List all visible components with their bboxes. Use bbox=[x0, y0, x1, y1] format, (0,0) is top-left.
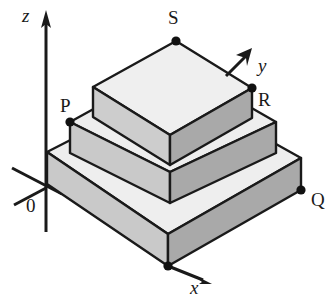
vertex-dot-Q bbox=[296, 185, 305, 194]
vertex-label-R: R bbox=[258, 90, 271, 109]
vertex-dot-front bbox=[163, 261, 172, 270]
vertex-dot-S bbox=[171, 36, 180, 45]
vertex-dot-R bbox=[247, 83, 256, 92]
y-axis-label: y bbox=[258, 56, 266, 75]
vertex-label-Q: Q bbox=[311, 190, 325, 209]
origin-label: 0 bbox=[26, 196, 36, 215]
vertex-label-P: P bbox=[60, 96, 71, 115]
z-axis-label: z bbox=[22, 6, 29, 25]
vertex-dot-P bbox=[65, 117, 74, 126]
axis-group bbox=[12, 10, 62, 232]
x-axis-label: x bbox=[190, 278, 198, 297]
vertex-label-S: S bbox=[168, 8, 179, 27]
y-axis-line bbox=[226, 56, 246, 76]
